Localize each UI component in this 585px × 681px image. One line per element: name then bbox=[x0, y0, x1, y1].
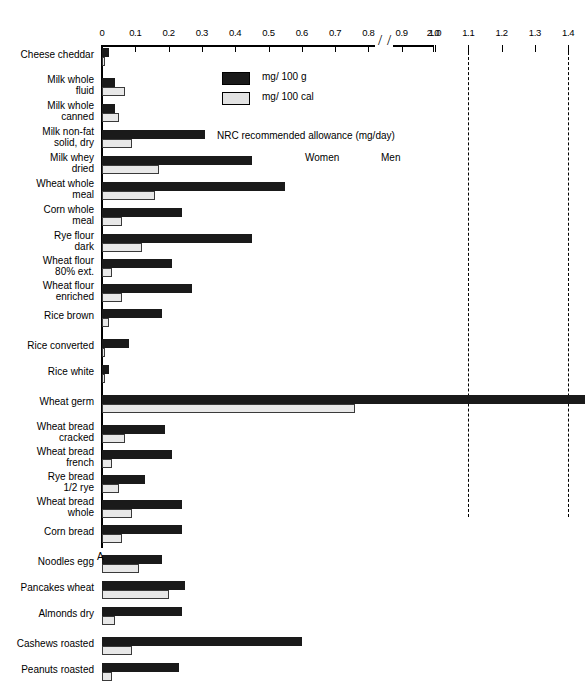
category-label: Wheat flourenriched bbox=[43, 280, 94, 302]
x-tick-0.2 bbox=[169, 45, 170, 52]
category-label: Rye flourdark bbox=[54, 230, 94, 252]
bar-mg-per-100cal bbox=[102, 293, 122, 302]
axis-break-icon: / bbox=[378, 32, 382, 49]
bar-mg-per-100cal bbox=[102, 268, 112, 277]
bar-mg-per-100g bbox=[102, 78, 115, 87]
category-label: Wheat wholemeal bbox=[36, 178, 94, 200]
bar-mg-per-100cal bbox=[102, 564, 139, 573]
category-label: Wheat breadcracked bbox=[37, 421, 94, 443]
bar-mg-per-100cal bbox=[102, 590, 169, 599]
bar-mg-per-100g bbox=[102, 475, 145, 484]
category-label: Rice white bbox=[48, 366, 94, 377]
x-axis-line-broken bbox=[393, 45, 433, 47]
category-label: Wheat breadwhole bbox=[37, 496, 94, 518]
bar-mg-per-100cal bbox=[102, 616, 115, 625]
category-label: Almonds dry bbox=[38, 608, 94, 619]
bar-mg-per-100g bbox=[102, 365, 109, 374]
x-tick-0.7 bbox=[335, 45, 336, 52]
bar-mg-per-100g bbox=[102, 104, 115, 113]
x-tick-label-0.4: 0.4 bbox=[222, 27, 248, 38]
category-label: Wheat breadfrench bbox=[37, 446, 94, 468]
category-label: Noodles egg bbox=[38, 556, 94, 567]
bar-mg-per-100g bbox=[102, 525, 182, 534]
nrc-allowance-annotation: NRC recommended allowance (mg/day) bbox=[217, 130, 395, 141]
bar-mg-per-100g bbox=[102, 425, 165, 434]
bar-mg-per-100cal bbox=[102, 459, 112, 468]
axis-break-icon-2: / bbox=[387, 32, 391, 49]
category-label: Wheat germ bbox=[40, 396, 94, 407]
men-reference-label: Men bbox=[381, 152, 400, 163]
x-tick-label-0.5: 0.5 bbox=[256, 27, 282, 38]
category-label: Milk non-fatsolid, dry bbox=[42, 126, 94, 148]
legend-label-mg-per-100g: mg/ 100 g bbox=[262, 71, 306, 82]
x-tick-label-0.2: 0.2 bbox=[156, 27, 182, 38]
x-tick-2.0 bbox=[433, 45, 434, 52]
category-label: Cashews roasted bbox=[17, 638, 94, 649]
bar-mg-per-100cal bbox=[102, 484, 119, 493]
category-label: Corn wholemeal bbox=[43, 204, 94, 226]
bar-mg-per-100cal bbox=[102, 113, 119, 122]
origin-marker: A bbox=[97, 551, 104, 562]
bar-mg-per-100g bbox=[102, 234, 252, 243]
bar-mg-per-100g bbox=[102, 555, 162, 564]
bar-mg-per-100g bbox=[102, 500, 182, 509]
bar-mg-per-100cal bbox=[102, 318, 109, 327]
bar-mg-per-100g bbox=[102, 182, 285, 191]
bar-mg-per-100g-broken-segment bbox=[393, 395, 421, 404]
category-label: Milk wholecanned bbox=[47, 100, 94, 122]
legend-swatch-mg-per-100cal bbox=[222, 92, 250, 105]
bar-mg-per-100cal bbox=[102, 139, 132, 148]
bar-mg-per-100g bbox=[102, 339, 129, 348]
x-tick-label-0.3: 0.3 bbox=[189, 27, 215, 38]
women-reference-label: Women bbox=[305, 152, 339, 163]
x-tick-label-0: 0 bbox=[89, 27, 115, 38]
x-tick-1.2 bbox=[502, 45, 503, 52]
x-tick-label-2.0: 2.0 bbox=[420, 27, 446, 38]
category-label: Pancakes wheat bbox=[21, 582, 94, 593]
x-tick-0.4 bbox=[235, 45, 236, 52]
bar-mg-per-100cal bbox=[102, 348, 105, 357]
bar-mg-per-100cal bbox=[102, 534, 122, 543]
bar-mg-per-100g bbox=[102, 208, 182, 217]
bar-mg-per-100g bbox=[102, 581, 185, 590]
bar-mg-per-100g bbox=[102, 284, 192, 293]
bar-mg-per-100g bbox=[102, 450, 172, 459]
category-label: Cheese cheddar bbox=[21, 49, 94, 60]
bar-mg-per-100cal bbox=[102, 646, 132, 655]
reference-line-women bbox=[468, 47, 469, 517]
x-tick-0.1 bbox=[135, 45, 136, 52]
bar-mg-per-100g bbox=[102, 259, 172, 268]
category-label: Milk wheydried bbox=[50, 152, 94, 174]
bar-mg-per-100g bbox=[102, 663, 179, 672]
bar-mg-per-100cal bbox=[102, 509, 132, 518]
x-tick-0.6 bbox=[302, 45, 303, 52]
category-label: Rye bread1/2 rye bbox=[48, 471, 94, 493]
x-tick-label-0.7: 0.7 bbox=[322, 27, 348, 38]
bar-mg-per-100cal bbox=[102, 434, 125, 443]
category-label: Wheat flour80% ext. bbox=[43, 255, 94, 277]
bar-mg-per-100g bbox=[102, 395, 585, 404]
category-label: Peanuts roasted bbox=[21, 664, 94, 675]
bar-mg-per-100cal bbox=[102, 672, 112, 681]
bar-mg-per-100cal bbox=[102, 165, 159, 174]
legend-swatch-mg-per-100g bbox=[222, 72, 250, 85]
category-label: Corn bread bbox=[44, 526, 94, 537]
x-tick-label-0.6: 0.6 bbox=[289, 27, 315, 38]
x-tick-1.3 bbox=[535, 45, 536, 52]
bar-mg-per-100cal bbox=[102, 243, 142, 252]
bar-mg-per-100g bbox=[102, 156, 252, 165]
x-tick-label-1.1: 1.1 bbox=[455, 27, 481, 38]
x-tick-label-1.4: 1.4 bbox=[555, 27, 581, 38]
bar-mg-per-100cal bbox=[102, 404, 355, 413]
x-tick-label-0.1: 0.1 bbox=[122, 27, 148, 38]
x-tick-0.5 bbox=[269, 45, 270, 52]
bar-mg-per-100g bbox=[102, 309, 162, 318]
category-label: Rice converted bbox=[27, 340, 94, 351]
bar-mg-per-100cal bbox=[102, 57, 105, 66]
reference-line-men bbox=[568, 47, 569, 517]
bar-mg-per-100g bbox=[102, 130, 205, 139]
bar-mg-per-100g bbox=[102, 607, 182, 616]
x-tick-0.9 bbox=[402, 45, 403, 52]
x-tick-0.8 bbox=[368, 45, 369, 52]
